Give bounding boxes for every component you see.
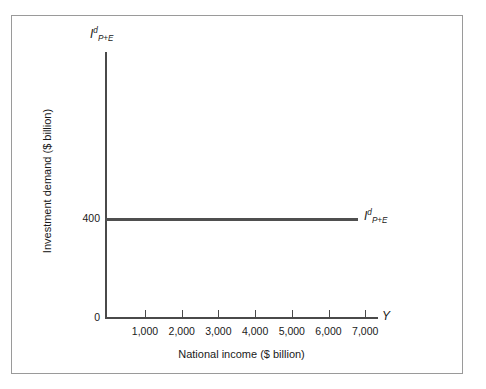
x-axis-tick-label: 5,000 [279, 325, 305, 337]
x-axis-tick-label: 4,000 [242, 325, 268, 337]
curve-label-subscript: P+E [372, 216, 388, 225]
x-axis-tick-label: 1,000 [132, 325, 158, 337]
x-axis-tick-label: 7,000 [352, 325, 378, 337]
y-axis-origin-label: 0 [74, 311, 100, 323]
x-axis-tick-label: 3,000 [205, 325, 231, 337]
x-axis-tick [218, 310, 219, 318]
investment-demand-curve [105, 218, 358, 221]
x-axis-tick [145, 310, 146, 318]
figure-container: IdP+E 1,0002,0003,0004,0005,0006,0007,00… [0, 0, 486, 389]
y-axis-variable-subscript: P+E [98, 34, 114, 43]
x-axis-tick-label: 2,000 [169, 325, 195, 337]
x-axis-tick [292, 310, 293, 318]
x-axis-title: National income ($ billion) [105, 348, 378, 360]
y-axis-line [105, 52, 107, 319]
x-axis-tick [365, 310, 366, 318]
y-axis-tick-label-400: 400 [74, 212, 100, 224]
x-axis-variable-label: Y [382, 309, 390, 323]
x-axis-tick [329, 310, 330, 318]
y-axis-variable-label: IdP+E [90, 26, 114, 43]
y-axis-title: Investment demand ($ billion) [41, 96, 53, 266]
x-axis-tick [182, 310, 183, 318]
investment-demand-curve-label: IdP+E [364, 208, 388, 225]
x-axis-tick-label: 6,000 [315, 325, 341, 337]
x-axis-tick [255, 310, 256, 318]
